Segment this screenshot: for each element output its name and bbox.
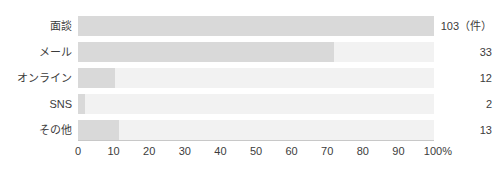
bar-4	[78, 120, 119, 140]
x-tick-label-4: 40	[214, 143, 226, 159]
value-labels: 103（件） 33 12 2 13	[440, 0, 504, 140]
plot-area	[78, 0, 434, 140]
value-label-3: 2	[440, 94, 492, 114]
x-tick-label-10: 100%	[424, 143, 452, 159]
x-tick-label-9: 90	[392, 143, 404, 159]
x-tick-label-3: 30	[179, 143, 191, 159]
horizontal-bar-chart: 面談 メール オンライン SNS その他 103（件） 33 1	[0, 0, 504, 177]
category-label-2: オンライン	[0, 68, 72, 88]
x-tick-label-2: 20	[143, 143, 155, 159]
x-axis-tick-labels: 0102030405060708090100%	[0, 143, 504, 163]
x-tick-label-1: 10	[107, 143, 119, 159]
bar-0	[78, 16, 434, 36]
value-label-0: 103（件）	[440, 16, 492, 36]
bar-track-2	[78, 68, 434, 88]
bar-row-4	[78, 120, 434, 140]
x-tick-label-5: 50	[250, 143, 262, 159]
category-label-0: 面談	[0, 16, 72, 36]
bar-track-4	[78, 120, 434, 140]
bar-row-0	[78, 16, 434, 36]
category-label-3: SNS	[0, 94, 72, 114]
bar-3	[78, 94, 85, 114]
category-label-1: メール	[0, 42, 72, 62]
x-tick-label-7: 70	[321, 143, 333, 159]
bar-1	[78, 42, 334, 62]
x-tick-label-0: 0	[75, 143, 81, 159]
bar-2	[78, 68, 115, 88]
bar-track-3	[78, 94, 434, 114]
bar-row-3	[78, 94, 434, 114]
x-axis-line	[78, 140, 434, 141]
value-label-2: 12	[440, 68, 492, 88]
category-label-4: その他	[0, 120, 72, 140]
value-label-4: 13	[440, 120, 492, 140]
x-tick-label-8: 80	[357, 143, 369, 159]
x-tick-label-6: 60	[285, 143, 297, 159]
bar-row-1	[78, 42, 434, 62]
y-axis-category-labels: 面談 メール オンライン SNS その他	[0, 0, 72, 140]
bar-row-2	[78, 68, 434, 88]
value-label-1: 33	[440, 42, 492, 62]
